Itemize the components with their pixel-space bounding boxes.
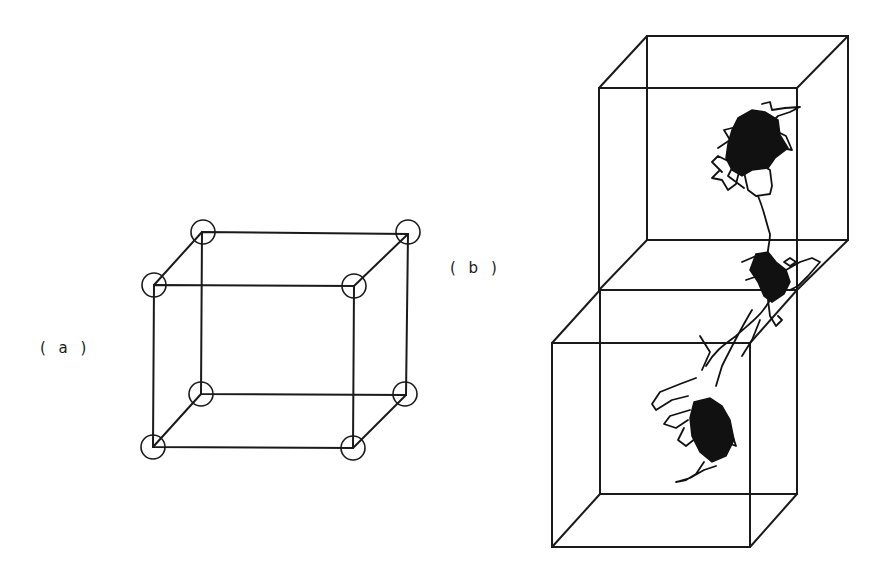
lower-edge [750, 494, 797, 547]
cube-a-front-face [153, 285, 354, 448]
upper-edge [797, 240, 848, 290]
cube-b-lower [552, 290, 797, 547]
lower-back-face [600, 290, 797, 494]
panel-b-label: ( b ) [450, 259, 501, 277]
lower-cluster [690, 398, 734, 462]
cube-a [141, 220, 420, 460]
cube-b-upper [599, 36, 848, 290]
upper-edge [797, 36, 848, 88]
figure-canvas [0, 0, 892, 574]
lower-edge [552, 290, 600, 343]
upper-edge [599, 36, 647, 88]
cube-a-edge [153, 394, 201, 447]
lower-edge [552, 494, 600, 547]
cube-a-back-face [201, 232, 408, 395]
panel-a-label: ( a ) [40, 339, 90, 357]
upper-edge [599, 240, 647, 290]
